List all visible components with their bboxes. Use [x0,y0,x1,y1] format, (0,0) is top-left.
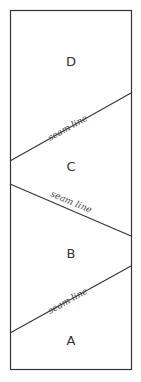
section-label-b: B [67,246,76,261]
seam-label-1: seam line [46,113,89,143]
seam-label-3: seam line [46,286,89,316]
section-label-c: C [66,159,75,174]
seam-line-2 [10,184,131,236]
seam-label-2: seam line [49,189,93,215]
foundation-piecing-diagram: seam line seam line seam line D C B A [0,0,141,382]
section-label-a: A [67,333,76,348]
section-label-d: D [66,54,76,69]
